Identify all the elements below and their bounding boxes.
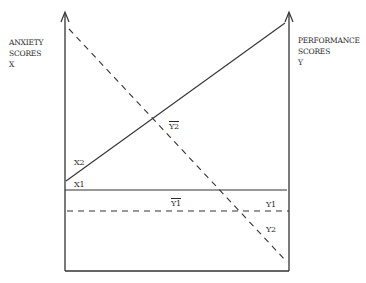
left-axis	[61, 12, 69, 271]
label-y1: Y1	[266, 200, 276, 210]
left-axis-label: ANXIETY SCORES X	[9, 37, 43, 70]
label-y2: Y2	[266, 225, 276, 235]
left-axis-label-line1: ANXIETY	[9, 37, 43, 48]
left-axis-label-line3: X	[9, 59, 43, 70]
label-y2-mean: Y2	[169, 122, 179, 132]
right-axis-label-line3: Y	[298, 57, 360, 68]
right-axis-label: PERFORMANCE SCORES Y	[298, 35, 360, 68]
dashed-falling-line	[69, 29, 287, 262]
right-axis	[285, 12, 293, 271]
label-x2: X2	[74, 158, 84, 168]
right-axis-label-line2: SCORES	[298, 46, 360, 57]
solid-rising-line	[66, 23, 285, 181]
right-axis-label-line1: PERFORMANCE	[298, 35, 360, 46]
label-x1: X1	[74, 180, 84, 190]
left-axis-label-line2: SCORES	[9, 48, 43, 59]
label-y1-mean: Y1	[171, 199, 181, 209]
